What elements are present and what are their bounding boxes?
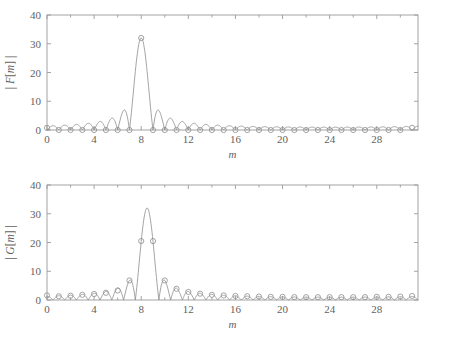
x-tick-label: 24 [324,133,336,145]
sample-markers [44,238,414,299]
plot-frame [47,185,418,300]
x-tick-label: 0 [44,303,50,315]
y-tick-label: 30 [30,208,42,220]
chart-svg-magnitude-F: 0481216202428010203040m| F[m] | [0,0,451,170]
chart-panel-magnitude-F: 0481216202428010203040m| F[m] | [0,0,451,170]
y-tick-label: 20 [30,237,42,249]
x-tick-label: 12 [183,303,194,315]
svg-text:| F[m] |: | F[m] | [4,56,17,89]
y-axis-label: | G[m] | [4,225,17,260]
x-tick-label: 8 [138,303,144,315]
x-tick-label: 4 [91,303,97,315]
x-tick-label: 20 [277,303,289,315]
y-tick-label: 0 [36,294,42,306]
x-tick-label: 24 [324,303,336,315]
x-axis-label: m [229,148,237,160]
x-tick-label: 20 [277,133,289,145]
y-tick-label: 40 [30,9,42,21]
x-tick-label: 16 [230,303,242,315]
y-tick-label: 20 [30,67,42,79]
x-tick-label: 12 [183,133,194,145]
x-tick-label: 4 [91,133,97,145]
x-tick-label: 28 [371,303,383,315]
y-tick-label: 0 [36,124,42,136]
envelope-curve [47,208,418,300]
envelope-curve [47,38,418,130]
sample-markers [44,35,414,132]
svg-text:| G[m] |: | G[m] | [4,225,17,260]
y-tick-label: 40 [30,179,42,191]
y-tick-label: 10 [30,95,42,107]
x-tick-label: 8 [138,133,144,145]
data-point-marker [410,293,415,298]
plot-frame [47,15,418,130]
y-axis-label: | F[m] | [4,56,17,89]
y-tick-label: 10 [30,265,42,277]
chart-panel-magnitude-G: 0481216202428010203040m| G[m] | [0,170,451,339]
figure-canvas: 0481216202428010203040m| F[m] | 04812162… [0,0,451,339]
x-axis-label: m [229,318,237,330]
x-tick-label: 0 [44,133,50,145]
x-tick-label: 16 [230,133,242,145]
y-tick-label: 30 [30,38,42,50]
x-tick-label: 28 [371,133,383,145]
chart-svg-magnitude-G: 0481216202428010203040m| G[m] | [0,170,451,339]
